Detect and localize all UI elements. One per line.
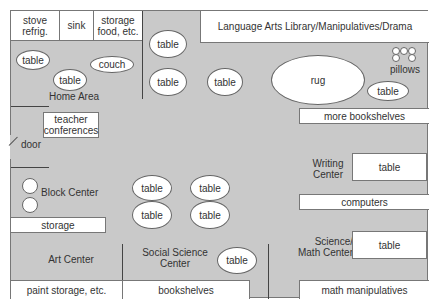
computers: computers	[299, 194, 429, 210]
art-center-label: Art Center	[21, 254, 121, 265]
home-table-2: table	[53, 69, 87, 91]
rug: rug	[271, 55, 365, 105]
writing-center-label: Writing Center	[307, 158, 349, 180]
wall-lower-left	[11, 167, 49, 168]
door-opening	[10, 135, 13, 159]
stove-refrigerator: stove refrig.	[11, 11, 60, 41]
classroom-floor-plan: stove refrig. sink storage food, etc. ta…	[10, 10, 428, 298]
center-table-mid-3: table	[132, 201, 172, 229]
center-table-top-3: table	[207, 68, 243, 96]
center-table-mid-4: table	[190, 201, 230, 229]
wall-upper-left	[11, 106, 49, 107]
pillows-label: pillows	[383, 64, 427, 75]
language-arts-table: table	[367, 81, 409, 101]
social-science-table: table	[217, 247, 257, 274]
pillow-icon	[400, 47, 408, 55]
writing-center-table: table	[352, 153, 427, 181]
block-icon	[22, 178, 38, 194]
door-label: door	[21, 139, 41, 150]
center-table-top-1: table	[149, 30, 187, 58]
paint-storage: paint storage, etc.	[10, 280, 123, 299]
math-manipulatives: math manipulatives	[299, 280, 429, 299]
science-math-label: Science/ Math Center	[291, 236, 353, 258]
wall-social-science	[268, 244, 269, 299]
center-table-mid-2: table	[190, 175, 230, 201]
social-science-label: Social Science Center	[129, 247, 221, 269]
block-storage: storage	[10, 217, 106, 233]
more-bookshelves: more bookshelves	[299, 108, 429, 124]
teacher-conferences: teacher conferences	[43, 112, 99, 138]
block-center-label: Block Center	[41, 187, 121, 198]
center-table-top-2: table	[149, 68, 187, 96]
food-storage: storage food, etc.	[93, 11, 143, 41]
block-icon	[22, 197, 38, 213]
science-math-table: table	[352, 231, 427, 259]
home-table-1: table	[16, 50, 50, 70]
pillow-icon	[392, 54, 400, 62]
pillow-icon	[408, 54, 416, 62]
wall-home-area	[142, 11, 143, 99]
home-area-label: Home Area	[39, 91, 109, 102]
center-table-mid-1: table	[132, 175, 172, 201]
couch: couch	[90, 56, 134, 73]
language-arts-library: Language Arts Library/Manipulatives/Dram…	[200, 11, 429, 43]
sink: sink	[59, 11, 94, 41]
bookshelves: bookshelves	[122, 280, 250, 299]
